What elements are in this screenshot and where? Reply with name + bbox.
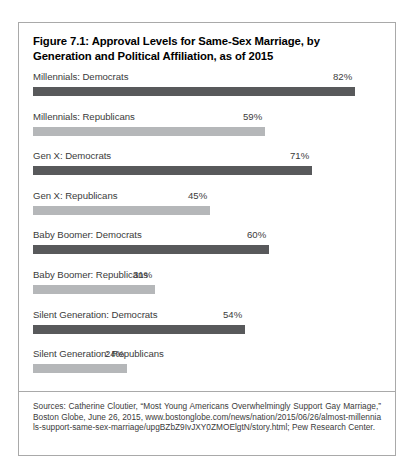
figure-card: Figure 7.1: Approval Levels for Same-Sex… (18, 22, 396, 456)
bar-row: Gen X: Republicans45% (33, 190, 383, 230)
bar-row-label: Gen X: Republicans (33, 190, 117, 201)
bar-fill (33, 325, 245, 334)
bar-fill (33, 166, 312, 175)
bar-track (33, 127, 383, 136)
bar-fill (33, 245, 269, 254)
bar-track (33, 87, 383, 96)
bar-row: Baby Boomer: Democrats60% (33, 229, 383, 269)
bar-fill (33, 285, 155, 294)
bar-row: Silent Generation: Democrats54% (33, 309, 383, 349)
bar-row: Baby Boomer: Republicans31% (33, 269, 383, 309)
bar-chart: Millennials: Democrats82%Millennials: Re… (33, 71, 383, 388)
bar-row-label: Gen X: Democrats (33, 150, 111, 161)
page-title: Figure 7.1: Approval Levels for Same-Sex… (33, 34, 373, 63)
bar-row-label: Millennials: Republicans (33, 111, 135, 122)
bar-row-label: Baby Boomer: Democrats (33, 229, 142, 240)
bar-track (33, 325, 383, 334)
source-note: Sources: Catherine Cloutier, “Most Young… (33, 401, 381, 433)
bar-row-label: Silent Generation: Republicans (33, 348, 164, 359)
bar-value-label: 59% (243, 111, 262, 122)
bar-row: Silent Generation: Republicans24% (33, 348, 383, 388)
bar-track (33, 364, 383, 373)
bar-value-label: 82% (333, 71, 352, 82)
bar-row: Gen X: Democrats71% (33, 150, 383, 190)
bar-value-label: 54% (223, 309, 242, 320)
bar-track (33, 166, 383, 175)
bar-fill (33, 364, 127, 373)
bar-fill (33, 87, 355, 96)
bar-row-label: Baby Boomer: Republicans (33, 269, 148, 280)
bar-fill (33, 206, 210, 215)
bar-value-label: 31% (133, 269, 152, 280)
bar-track (33, 285, 383, 294)
source-divider (19, 391, 395, 392)
bar-value-label: 24% (105, 348, 124, 359)
bar-fill (33, 127, 265, 136)
bar-value-label: 71% (290, 150, 309, 161)
bar-track (33, 245, 383, 254)
bar-row-label: Silent Generation: Democrats (33, 309, 157, 320)
bar-row: Millennials: Democrats82% (33, 71, 383, 111)
bar-row: Millennials: Republicans59% (33, 111, 383, 151)
bar-row-label: Millennials: Democrats (33, 71, 128, 82)
bar-value-label: 60% (247, 229, 266, 240)
bar-track (33, 206, 383, 215)
bar-value-label: 45% (188, 190, 207, 201)
